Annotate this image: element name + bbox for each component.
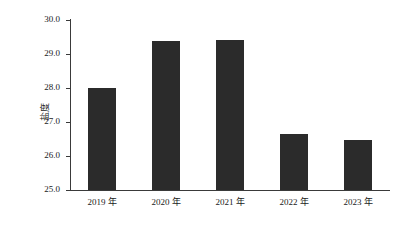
bar bbox=[280, 134, 308, 190]
x-tick-label: 2019 年 bbox=[70, 198, 134, 207]
bar bbox=[88, 88, 116, 190]
x-tick-label: 2020 年 bbox=[134, 198, 198, 207]
y-tick-label: 29.0 bbox=[0, 49, 60, 58]
x-tick-label: 2021 年 bbox=[198, 198, 262, 207]
y-tick-label: 25.0 bbox=[0, 185, 60, 194]
bar-series bbox=[70, 20, 390, 190]
x-tick-label: 2022 年 bbox=[262, 198, 326, 207]
bar bbox=[344, 140, 372, 190]
bar bbox=[216, 40, 244, 190]
y-tick-label: 30.0 bbox=[0, 15, 60, 24]
y-tick-label: 27.0 bbox=[0, 117, 60, 126]
y-tick-label: 26.0 bbox=[0, 151, 60, 160]
bar bbox=[152, 41, 180, 190]
y-tick-label: 28.0 bbox=[0, 83, 60, 92]
bar-chart-figure: 盐度 30.029.028.027.026.025.0 2019 年2020 年… bbox=[0, 0, 406, 234]
y-axis-ticks: 30.029.028.027.026.025.0 bbox=[0, 0, 64, 234]
x-axis-line bbox=[70, 190, 390, 191]
x-tick-label: 2023 年 bbox=[326, 198, 390, 207]
